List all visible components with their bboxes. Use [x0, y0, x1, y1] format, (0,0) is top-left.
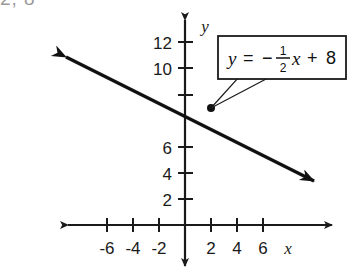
x-axis-label: x: [283, 239, 292, 258]
y-tick-label-12: 12: [153, 34, 172, 53]
graph-figure: 2, 8 -6 -4 -2 2 4 6: [0, 0, 354, 272]
callout-pointer: [211, 78, 268, 108]
x-axis: -6 -4 -2 2 4 6 x: [68, 218, 332, 258]
x-tick-label--4: -4: [125, 239, 140, 258]
y-tick-label-10: 10: [153, 60, 172, 79]
x-tick-label--2: -2: [151, 239, 166, 258]
y-axis-label: y: [199, 17, 209, 36]
x-tick-label--6: -6: [99, 239, 114, 258]
equation-equals: =: [243, 48, 254, 68]
partial-cropped-text: 2, 8: [0, 0, 36, 10]
equation-fraction-numerator: 1: [280, 44, 287, 58]
equation-minus-sign: −: [262, 48, 273, 68]
y-axis: 12 10 6 4 2 y: [153, 17, 209, 266]
equation-lhs: y: [226, 48, 237, 69]
x-tick-label-6: 6: [258, 239, 267, 258]
x-tick-label-2: 2: [206, 239, 215, 258]
callout-tail-shape: [211, 78, 268, 108]
equation-variable-x: x: [291, 48, 301, 69]
equation-callout-box: y = − 1 2 x + 8: [218, 36, 346, 79]
y-tick-label-4: 4: [163, 165, 172, 184]
equation-constant: 8: [326, 48, 336, 68]
equation-plus-sign: +: [307, 48, 318, 68]
equation-fraction-denominator: 2: [280, 61, 287, 75]
coordinate-plane-svg: -6 -4 -2 2 4 6 x 12 10 6 4 2 y: [0, 0, 354, 272]
x-tick-label-4: 4: [232, 239, 241, 258]
y-tick-label-2: 2: [163, 191, 172, 210]
y-tick-label-6: 6: [163, 139, 172, 158]
